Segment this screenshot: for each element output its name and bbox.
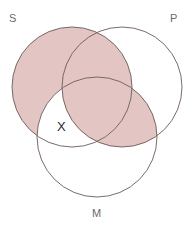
circle-label-p: P [170, 13, 178, 24]
venn-diagram-canvas: S P M X [0, 0, 195, 230]
circle-label-s: S [9, 13, 17, 24]
venn-diagram-svg [0, 0, 195, 230]
shaded-regions [12, 27, 157, 197]
circle-label-m: M [92, 208, 102, 219]
x-mark-s-and-m: X [57, 120, 66, 133]
